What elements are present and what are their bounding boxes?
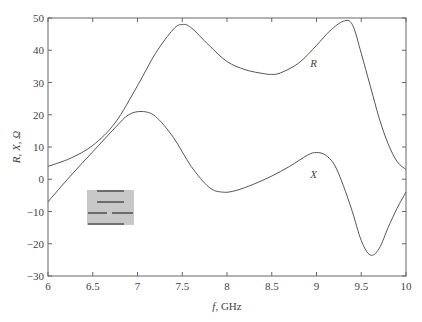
x-tick-label: 9 (314, 280, 320, 292)
x-tick-label: 8 (224, 280, 230, 292)
x-tick-label: 10 (401, 280, 413, 292)
x-tick-label: 6.5 (86, 280, 100, 292)
chart: 66.577.588.599.510 50403020100−10−20−30 … (0, 0, 422, 322)
y-tick-label: 50 (33, 12, 45, 24)
curve-label-x: X (309, 168, 318, 180)
series-x-line (48, 111, 406, 255)
x-axis-label: f, GHz (212, 300, 241, 312)
plot-frame (48, 18, 406, 276)
y-tick-label: 20 (33, 109, 45, 121)
y-tick-label: 30 (33, 77, 45, 89)
axes (48, 18, 406, 276)
x-axis-ticks: 66.577.588.599.510 (45, 18, 412, 292)
x-tick-label: 7 (135, 280, 141, 292)
y-tick-label: −10 (27, 206, 45, 218)
x-tick-label: 8.5 (265, 280, 279, 292)
y-tick-label: 10 (33, 141, 45, 153)
y-tick-label: −20 (27, 238, 45, 250)
series-r-line (48, 20, 406, 169)
curve-labels: RX (309, 57, 318, 180)
inset-diagram-icon (87, 190, 134, 225)
y-tick-label: 40 (33, 44, 45, 56)
curve-label-r: R (309, 57, 317, 69)
y-tick-label: −30 (27, 270, 45, 282)
x-tick-label: 7.5 (175, 280, 189, 292)
y-tick-label: 0 (39, 173, 45, 185)
x-tick-label: 9.5 (354, 280, 368, 292)
x-tick-label: 6 (45, 280, 51, 292)
y-axis-label: R, X, Ω (10, 131, 22, 164)
